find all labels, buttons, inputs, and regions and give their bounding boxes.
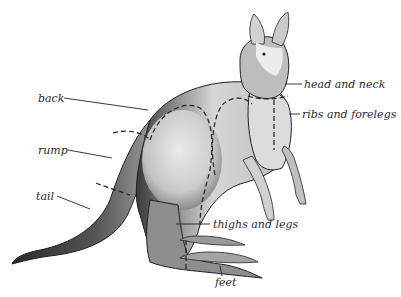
label-head-and-neck: head and neck [304,79,385,90]
thigh-shape [142,110,222,210]
leader-rump [68,150,112,158]
tail-shape [12,120,152,264]
eye [262,52,265,55]
leader-tail [57,196,90,209]
label-tail: tail [36,191,54,202]
label-back: back [38,93,64,104]
ear-right-shape [272,12,289,46]
leader-back [64,98,148,110]
label-feet: feet [215,277,237,288]
label-thighs-and-legs: thighs and legs [213,219,298,230]
label-rump: rump [38,145,68,156]
foreleg-right-shape [282,146,306,204]
label-ribs-and-forelegs: ribs and forelegs [302,109,396,120]
ear-left-shape [250,14,265,44]
